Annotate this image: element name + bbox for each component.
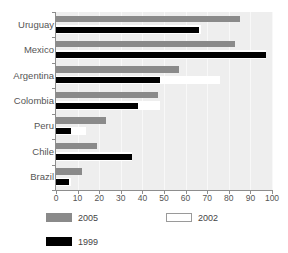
- y-axis-category-label: Brazil: [30, 172, 54, 182]
- y-axis-tick: [52, 88, 56, 89]
- x-axis-tick-label: 10: [67, 193, 89, 203]
- bar-2005-colombia: [56, 92, 158, 99]
- y-axis-category-label: Argentina: [13, 71, 54, 81]
- x-axis-tick-label: 30: [110, 193, 132, 203]
- bar-2005-uruguay: [56, 16, 240, 23]
- bar-2005-chile: [56, 143, 97, 150]
- bar-2005-argentina: [56, 66, 179, 73]
- y-axis-category-label: Chile: [32, 147, 54, 157]
- x-axis-tick-label: 40: [131, 193, 153, 203]
- gridline: [186, 12, 187, 190]
- bar-1999-peru: [56, 128, 71, 134]
- x-axis-tick-label: 60: [175, 193, 197, 203]
- chart-title-clipped: [6, 0, 126, 6]
- bar-1999-mexico: [56, 52, 266, 58]
- y-axis-tick: [52, 114, 56, 115]
- bar-1999-chile: [56, 154, 132, 160]
- legend-label: 2005: [78, 212, 98, 224]
- bar-chart: 0102030405060708090100 UruguayMexicoArge…: [0, 0, 288, 253]
- y-axis-tick: [52, 165, 56, 166]
- x-axis-tick-label: 0: [45, 193, 67, 203]
- y-axis-category-label: Peru: [34, 121, 54, 131]
- bar-1999-brazil: [56, 179, 69, 185]
- bar-2005-mexico: [56, 41, 235, 48]
- y-axis-tick: [52, 63, 56, 64]
- y-axis-tick: [52, 139, 56, 140]
- y-axis-category-label: Uruguay: [18, 20, 54, 30]
- x-axis-tick-label: 90: [239, 193, 261, 203]
- bar-1999-colombia: [56, 103, 138, 109]
- gridline: [207, 12, 208, 190]
- y-axis-tick: [52, 37, 56, 38]
- x-axis-tick-label: 80: [218, 193, 240, 203]
- y-axis-category-label: Mexico: [24, 45, 54, 55]
- gridline: [164, 12, 165, 190]
- legend-swatch-2005: [46, 213, 72, 222]
- gridline: [229, 12, 230, 190]
- gridline: [272, 12, 273, 190]
- x-axis-tick-label: 70: [196, 193, 218, 203]
- bar-2005-brazil: [56, 168, 82, 175]
- y-axis-tick: [52, 12, 56, 13]
- legend-label: 2002: [198, 212, 218, 224]
- x-axis-tick-label: 20: [88, 193, 110, 203]
- bar-1999-uruguay: [56, 27, 199, 33]
- chart-legend: 200520021999: [0, 206, 288, 253]
- bar-2005-peru: [56, 117, 106, 124]
- legend-swatch-2002: [166, 213, 192, 222]
- bar-1999-argentina: [56, 77, 160, 83]
- x-axis-tick-label: 50: [153, 193, 175, 203]
- y-axis-category-label: Colombia: [14, 96, 54, 106]
- y-axis-tick: [52, 190, 56, 191]
- x-axis-tick-label: 100: [261, 193, 283, 203]
- legend-swatch-1999: [46, 237, 72, 246]
- gridline: [250, 12, 251, 190]
- legend-label: 1999: [78, 236, 98, 248]
